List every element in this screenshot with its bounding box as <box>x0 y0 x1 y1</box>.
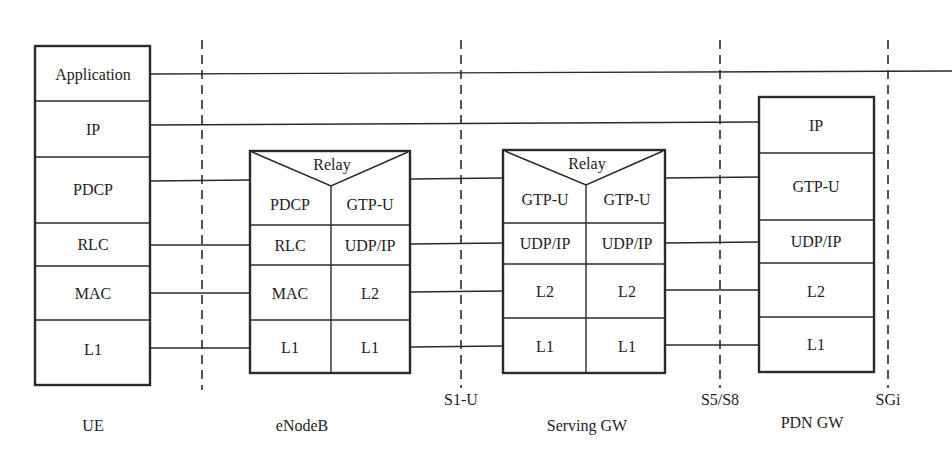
link-application <box>150 71 952 74</box>
enodeb-left-pdcp: PDCP <box>270 196 310 214</box>
ue-layer-mac: MAC <box>75 285 111 303</box>
node-label-ue: UE <box>82 417 103 435</box>
ue-layer-application: Application <box>55 66 131 84</box>
pdn-gw-layer-gtpu: GTP-U <box>792 178 839 196</box>
pdn-gw-layer-l2: L2 <box>807 283 825 301</box>
node-label-pdn-gw: PDN GW <box>781 414 844 432</box>
link-udpip-s5 <box>665 242 759 243</box>
ue-layer-pdcp: PDCP <box>73 181 113 199</box>
node-label-enodeb: eNodeB <box>276 417 328 435</box>
ue-layer-l1: L1 <box>84 341 102 359</box>
ue-layer-ip: IP <box>86 121 100 139</box>
interface-label-s1u: S1-U <box>444 391 478 409</box>
enodeb-right-udpip: UDP/IP <box>345 237 396 255</box>
pdn-gw-layer-udpip: UDP/IP <box>791 233 842 251</box>
enodeb-left-mac: MAC <box>272 285 308 303</box>
serving-gw-right-l2: L2 <box>618 283 636 301</box>
enodeb-right-gtpu: GTP-U <box>346 196 393 214</box>
node-label-serving-gw: Serving GW <box>547 417 627 435</box>
serving-gw-right-gtpu: GTP-U <box>603 191 650 209</box>
enodeb-right-l1: L1 <box>361 339 379 357</box>
link-gtpu-s1 <box>410 178 503 179</box>
serving-gw-left-l2: L2 <box>536 283 554 301</box>
serving-gw-left-gtpu: GTP-U <box>521 191 568 209</box>
serving-gw-right-udpip: UDP/IP <box>602 235 653 253</box>
ue-layer-rlc: RLC <box>77 236 108 254</box>
link-l1-s1 <box>410 346 503 347</box>
enodeb-right-l2: L2 <box>361 285 379 303</box>
enodeb-stack-box <box>250 151 410 373</box>
serving-gw-left-udpip: UDP/IP <box>520 235 571 253</box>
ue-stack-box <box>35 46 150 385</box>
enodeb-relay-label: Relay <box>313 156 350 174</box>
interface-label-sgi: SGi <box>876 391 901 409</box>
interface-label-s5s8: S5/S8 <box>701 391 739 409</box>
serving-gw-relay-label: Relay <box>568 155 605 173</box>
pdn-gw-layer-ip: IP <box>809 117 823 135</box>
serving-gw-right-l1: L1 <box>618 338 636 356</box>
link-gtpu-s5 <box>665 177 759 178</box>
serving-gw-stack-box <box>503 150 665 373</box>
serving-gw-left-l1: L1 <box>536 338 554 356</box>
pdn-gw-layer-l1: L1 <box>807 336 825 354</box>
link-ip <box>150 122 759 125</box>
link-udpip-s1 <box>410 243 503 244</box>
enodeb-left-l1: L1 <box>281 339 299 357</box>
enodeb-left-rlc: RLC <box>274 237 305 255</box>
link-l2-s1 <box>410 291 503 292</box>
link-pdcp <box>150 180 250 181</box>
